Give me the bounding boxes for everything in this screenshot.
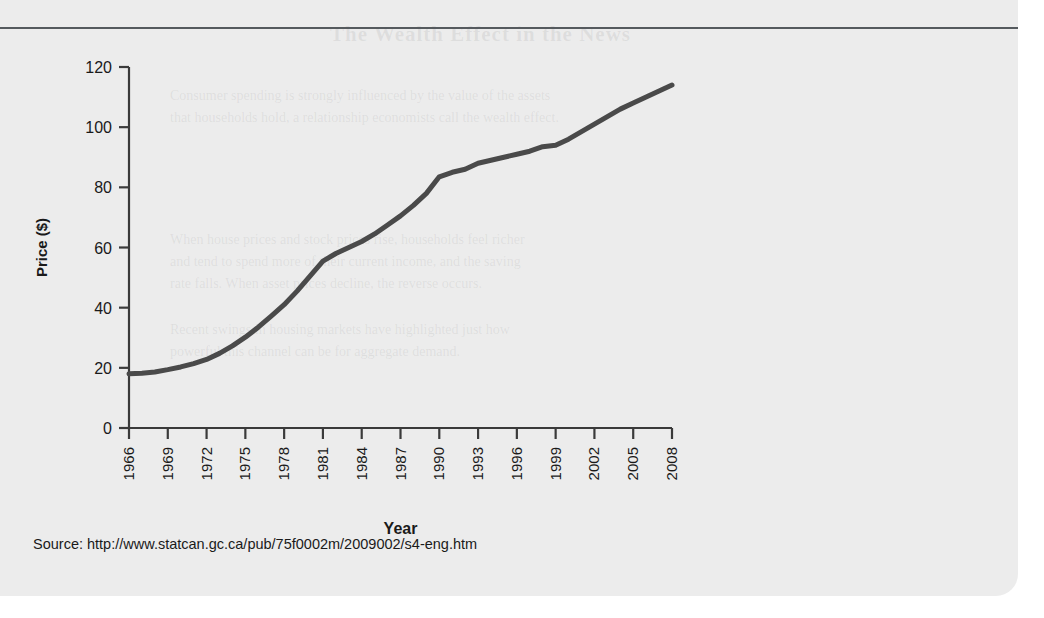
series-line [129, 85, 672, 374]
y-tick-label: 0 [103, 420, 112, 437]
data-series-group [129, 85, 672, 374]
x-tick-label: 1993 [469, 447, 486, 480]
figure-page: The Wealth Effect in the News Consumer s… [0, 0, 1044, 618]
x-tick-label: 2002 [585, 447, 602, 480]
y-tick-label: 60 [94, 240, 112, 257]
y-tick-label: 20 [94, 360, 112, 377]
y-tick-label: 40 [94, 300, 112, 317]
y-axis-ticks-group: 020406080100120 [85, 59, 129, 437]
y-tick-label: 80 [94, 179, 112, 196]
chart-canvas: Price ($) 020406080100120 19661969197219… [0, 40, 720, 540]
axis-lines-group [129, 67, 672, 428]
x-tick-label: 1999 [547, 447, 564, 480]
y-tick-label: 100 [85, 119, 112, 136]
x-tick-label: 1987 [392, 447, 409, 480]
x-tick-label: 1978 [275, 447, 292, 480]
x-axis-title-group: Year [384, 520, 418, 537]
x-tick-label: 1984 [353, 447, 370, 480]
x-axis-ticks-group: 1966196919721975197819811984198719901993… [120, 428, 680, 480]
x-tick-label: 1981 [314, 447, 331, 480]
y-axis-title-group: Price ($) [33, 218, 50, 277]
price-by-year-line-chart: Price ($) 020406080100120 19661969197219… [0, 40, 720, 540]
x-tick-label: 1969 [159, 447, 176, 480]
x-tick-label: 2008 [663, 447, 680, 480]
x-tick-label: 1996 [508, 447, 525, 480]
header-divider-rule [0, 27, 1018, 29]
x-axis-title: Year [384, 520, 418, 537]
x-tick-label: 1975 [236, 447, 253, 480]
y-tick-label: 120 [85, 59, 112, 76]
y-axis-title: Price ($) [33, 218, 50, 277]
x-tick-label: 1966 [120, 447, 137, 480]
x-tick-label: 1972 [198, 447, 215, 480]
x-tick-label: 2005 [624, 447, 641, 480]
x-tick-label: 1990 [430, 447, 447, 480]
source-citation: Source: http://www.statcan.gc.ca/pub/75f… [33, 536, 477, 552]
